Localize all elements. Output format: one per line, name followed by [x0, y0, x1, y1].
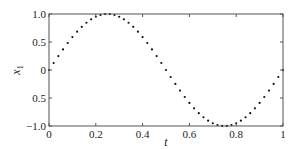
data-point: [160, 62, 162, 64]
data-point: [277, 76, 279, 78]
data-point: [57, 55, 59, 57]
data-point: [127, 22, 129, 24]
data-point: [249, 112, 251, 114]
data-point: [254, 107, 256, 109]
data-point: [263, 96, 265, 98]
data-point: [244, 116, 246, 118]
data-point: [165, 69, 167, 71]
data-point: [118, 16, 120, 18]
data-point: [151, 48, 153, 50]
data-point: [62, 48, 64, 50]
y-tick-label: 0: [41, 64, 47, 76]
y-axis-ticks: 1.00.500.5−1.0: [26, 8, 283, 132]
data-point: [174, 83, 176, 85]
data-point: [198, 112, 200, 114]
data-point: [156, 55, 158, 57]
data-point: [268, 90, 270, 92]
data-point: [142, 36, 144, 38]
y-tick-label: 1.0: [32, 8, 46, 20]
data-point: [188, 102, 190, 104]
data-point: [137, 31, 139, 33]
y-tick-label: 0.5: [32, 92, 46, 104]
svg-text:x1: x1: [9, 65, 25, 75]
y-axis-label: x1: [9, 65, 25, 75]
data-point: [170, 76, 172, 78]
data-point: [184, 96, 186, 98]
data-point: [179, 90, 181, 92]
y-tick-label: −1.0: [26, 120, 46, 132]
chart: 00.20.40.60.81 1.00.500.5−1.0 t x1: [0, 0, 298, 149]
data-point: [71, 36, 73, 38]
y-tick-label: 0.5: [32, 36, 46, 48]
x-tick-label: 0.2: [89, 128, 103, 140]
x-tick-label: 0.6: [183, 128, 197, 140]
x-tick-label: 0.4: [136, 128, 150, 140]
data-point: [212, 122, 214, 124]
data-point: [67, 42, 69, 44]
data-point: [240, 120, 242, 122]
data-point: [123, 18, 125, 20]
data-point: [207, 120, 209, 122]
x-axis-ticks: 00.20.40.60.81: [46, 14, 286, 140]
x-tick-label: 0.8: [229, 128, 243, 140]
plot-area: [48, 13, 284, 127]
y-axis-label-sub: 1: [16, 65, 25, 69]
data-point: [193, 107, 195, 109]
data-point: [273, 83, 275, 85]
data-point: [259, 102, 261, 104]
data-point: [81, 26, 83, 28]
data-point: [146, 42, 148, 44]
x-tick-label: 1: [280, 128, 286, 140]
x-tick-label: 0: [46, 128, 52, 140]
x-axis-label: t: [164, 135, 168, 149]
data-point: [53, 62, 55, 64]
data-point: [76, 31, 78, 33]
data-point: [85, 22, 87, 24]
data-point: [90, 18, 92, 20]
data-point: [202, 116, 204, 118]
data-point: [132, 26, 134, 28]
